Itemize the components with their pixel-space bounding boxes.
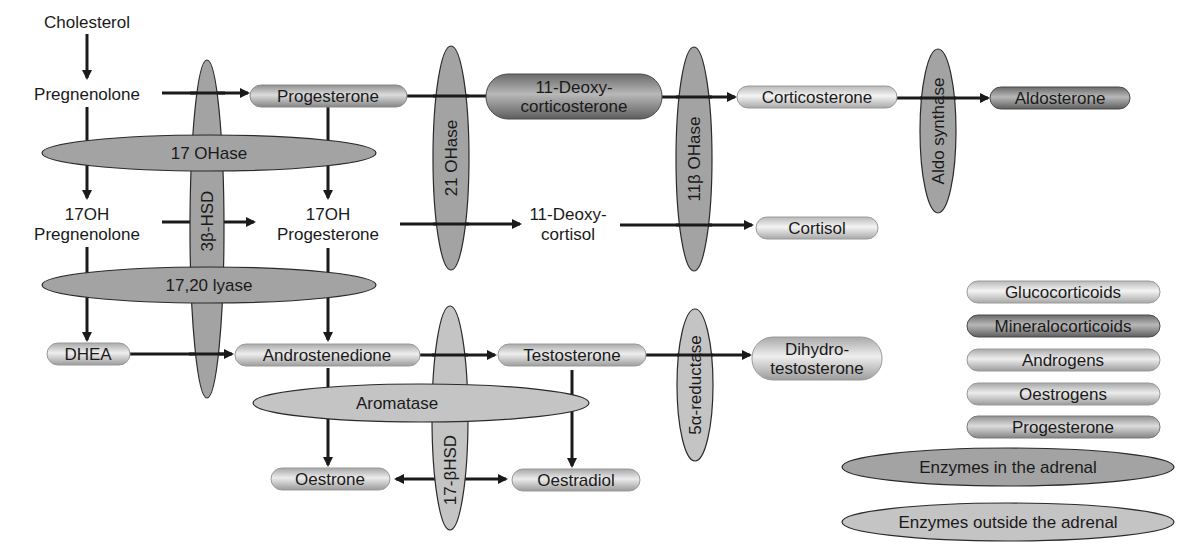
node-oestradiol: Oestradiol [512, 469, 640, 491]
enzyme-label: 11β OHase [685, 116, 704, 201]
enzyme-11b-ohase: 11β OHase [676, 47, 712, 271]
svg-text:Pregnenolone: Pregnenolone [34, 225, 140, 244]
node-pregnenolone: Pregnenolone [34, 85, 140, 104]
enzyme-label: 21 OHase [442, 120, 461, 197]
svg-text:Oestrone: Oestrone [295, 470, 365, 489]
svg-text:DHEA: DHEA [64, 345, 112, 364]
svg-text:Glucocorticoids: Glucocorticoids [1005, 283, 1121, 302]
svg-text:Progesterone: Progesterone [277, 225, 379, 244]
svg-text:Progesterone: Progesterone [277, 87, 379, 106]
node-oestrone: Oestrone [271, 468, 390, 490]
node-aldosterone: Aldosterone [990, 87, 1130, 109]
svg-text:Androstenedione: Androstenedione [263, 346, 392, 365]
svg-text:corticosterone: corticosterone [521, 97, 628, 116]
svg-text:Androgens: Androgens [1022, 351, 1104, 370]
enzyme-label: 3β-HSD [198, 191, 217, 252]
steroid-pathway-diagram: 3β-HSD 17 OHase 17,20 lyase 21 OHase 11β… [0, 0, 1189, 551]
svg-text:testosterone: testosterone [770, 359, 864, 378]
enzyme-5a-reductase: 5α-reductase [677, 309, 713, 461]
svg-text:Oestrogens: Oestrogens [1019, 385, 1107, 404]
svg-text:Mineralocorticoids: Mineralocorticoids [995, 317, 1132, 336]
node-androstenedione: Androstenedione [235, 344, 420, 366]
enzyme-17-ohase: 17 OHase [42, 135, 376, 171]
svg-text:Progesterone: Progesterone [1012, 418, 1114, 437]
enzyme-label: 17-βHSD [441, 435, 460, 505]
enzyme-label: Aromatase [356, 394, 438, 413]
legend-oestrogens: Oestrogens [967, 383, 1160, 405]
svg-text:11-Deoxy-: 11-Deoxy- [535, 78, 612, 97]
node-11-deoxycortisol: 11-Deoxy- cortisol [529, 205, 606, 244]
enzyme-17-20-lyase: 17,20 lyase [42, 267, 376, 303]
enzyme-21-ohase: 21 OHase [433, 46, 469, 270]
svg-text:cortisol: cortisol [541, 225, 595, 244]
legend-mineralocorticoids: Mineralocorticoids [967, 315, 1160, 337]
legend-glucocorticoids: Glucocorticoids [967, 281, 1160, 303]
svg-text:Testosterone: Testosterone [523, 346, 620, 365]
enzyme-aromatase: Aromatase [253, 384, 589, 422]
svg-text:11-Deoxy-: 11-Deoxy- [529, 205, 606, 224]
svg-text:Enzymes in the adrenal: Enzymes in the adrenal [919, 458, 1097, 477]
svg-text:Dihydro-: Dihydro- [785, 340, 849, 359]
svg-text:Aldosterone: Aldosterone [1015, 89, 1106, 108]
enzyme-label: 5α-reductase [686, 335, 705, 435]
svg-text:Oestradiol: Oestradiol [537, 471, 614, 490]
legend: Glucocorticoids Mineralocorticoids Andro… [842, 281, 1174, 541]
node-cortisol: Cortisol [756, 217, 878, 239]
node-17oh-progesterone: 17OH Progesterone [277, 205, 379, 244]
enzyme-label: 17 OHase [171, 144, 248, 163]
enzyme-label: 17,20 lyase [166, 276, 253, 295]
svg-text:17OH: 17OH [306, 205, 350, 224]
legend-androgens: Androgens [967, 349, 1160, 371]
enzyme-3b-hsd: 3β-HSD [190, 60, 224, 398]
legend-enzymes-outside: Enzymes outside the adrenal [842, 503, 1174, 541]
node-11-deoxycorticosterone: 11-Deoxy- corticosterone [486, 74, 662, 119]
node-dihydrotestosterone: Dihydro- testosterone [752, 337, 882, 380]
svg-text:Corticosterone: Corticosterone [762, 88, 873, 107]
svg-text:Enzymes outside the adrenal: Enzymes outside the adrenal [898, 513, 1117, 532]
node-cholesterol: Cholesterol [44, 13, 130, 32]
node-progesterone: Progesterone [250, 85, 407, 107]
enzyme-label: Aldo synthase [929, 78, 948, 185]
legend-enzymes-adrenal: Enzymes in the adrenal [842, 448, 1174, 486]
node-testosterone: Testosterone [498, 344, 646, 366]
node-corticosterone: Corticosterone [737, 86, 897, 108]
svg-text:Cortisol: Cortisol [788, 219, 846, 238]
svg-text:17OH: 17OH [65, 205, 109, 224]
enzyme-aldo-synthase: Aldo synthase [920, 49, 956, 213]
legend-progesterone: Progesterone [967, 416, 1160, 438]
node-17oh-pregnenolone: 17OH Pregnenolone [34, 205, 140, 244]
node-dhea: DHEA [47, 343, 130, 365]
